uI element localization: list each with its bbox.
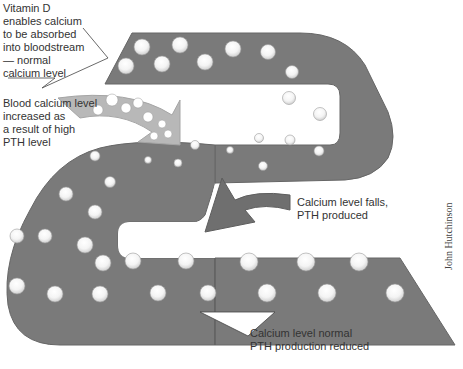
falls-arrow	[205, 178, 290, 232]
illustrator-credit: John Hutchinson	[443, 203, 454, 271]
vitamin-d-label: Vitamin D enables calcium to be absorbed…	[3, 2, 84, 80]
diagram-canvas: Vitamin D enables calcium to be absorbed…	[0, 0, 463, 369]
level-normal-label: Calcium level normal PTH production redu…	[250, 327, 369, 353]
blood-calcium-label: Blood calcium level increased as a resul…	[3, 97, 97, 149]
level-falls-label: Calcium level falls, PTH produced	[297, 196, 388, 222]
